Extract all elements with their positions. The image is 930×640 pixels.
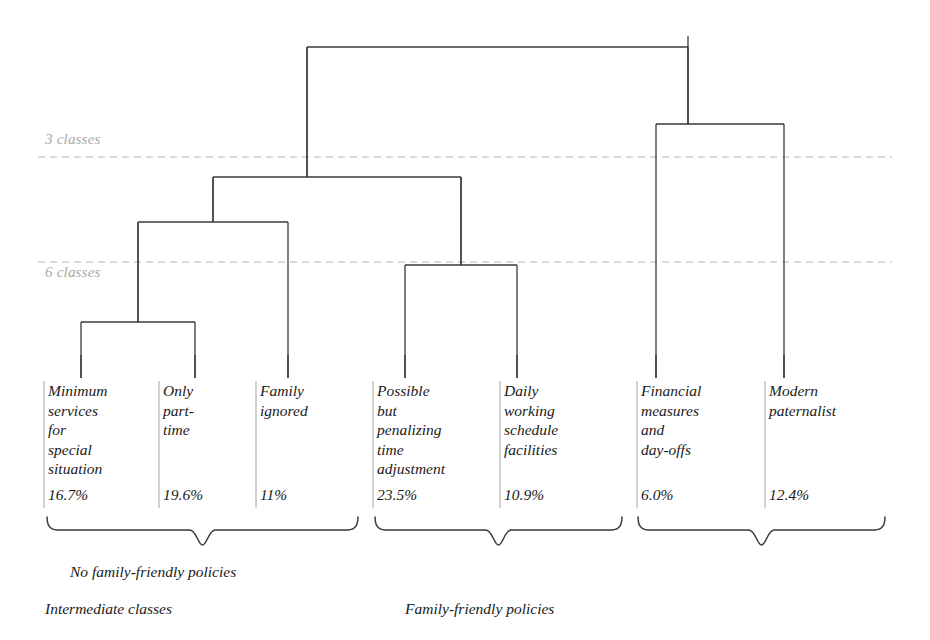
caption-family-friendly: Family-friendly policies (405, 600, 554, 618)
leaf-name-leaf-5: Daily working schedule facilities (504, 381, 558, 459)
branch-merge-e (656, 47, 784, 378)
leaf-percent-leaf-3: 11% (260, 485, 287, 505)
leaf-percent-leaf-7: 12.4% (769, 485, 809, 505)
branch-merge-root (307, 36, 688, 177)
leaf-name-leaf-7: Modern paternalist (769, 381, 836, 420)
brace-path-brace-3 (638, 517, 885, 545)
cut-label-cut-6: 6 classes (45, 264, 101, 281)
leaf-percent-leaf-6: 6.0% (641, 485, 673, 505)
branch-merge-b (138, 177, 288, 378)
group-braces (0, 0, 930, 640)
tree-branch-lines (81, 36, 784, 378)
leaf-percent-leaf-2: 19.6% (163, 485, 203, 505)
branch-merge-d (213, 47, 461, 265)
leaf-percent-leaf-5: 10.9% (504, 485, 544, 505)
caption-intermediate: Intermediate classes (45, 600, 172, 618)
leaf-name-leaf-4: Possible but penalizing time adjustment (377, 381, 445, 479)
cut-label-cut-3: 3 classes (45, 131, 101, 148)
brace-path-brace-2 (375, 517, 622, 545)
leaf-percent-leaf-4: 23.5% (377, 485, 417, 505)
brace-path-brace-1 (47, 517, 358, 545)
branch-merge-c (405, 177, 517, 378)
dendrogram-figure: 3 classes6 classes Minimum services for … (0, 0, 930, 640)
leaf-name-leaf-6: Financial measures and day-offs (641, 381, 701, 459)
leaf-percent-leaf-1: 16.7% (48, 485, 88, 505)
leaf-name-leaf-3: Family ignored (260, 381, 308, 420)
brace-caption-brace-1: No family-friendly policies (70, 563, 236, 581)
branch-merge-a (81, 222, 195, 378)
dendrogram-tree (0, 0, 930, 640)
leaf-name-leaf-2: Only part- time (163, 381, 194, 440)
leaf-name-leaf-1: Minimum services for special situation (48, 381, 107, 479)
leaf-stems (81, 355, 784, 378)
cut-level-lines (38, 157, 892, 262)
